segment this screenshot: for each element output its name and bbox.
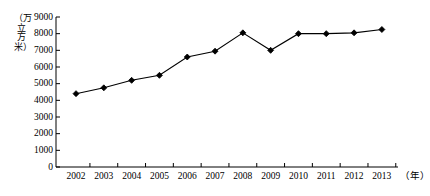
data-point-markers	[73, 27, 385, 97]
y-axis-tick-label: 7000	[34, 45, 53, 55]
data-line-series	[76, 30, 382, 94]
y-axis-tick-label: 0	[48, 162, 53, 172]
data-point-marker	[184, 54, 190, 60]
y-axis-tick-label: 8000	[34, 28, 53, 38]
data-point-marker	[156, 72, 162, 78]
y-axis-tick-label: 5000	[34, 78, 53, 88]
chart-axes	[56, 17, 398, 167]
x-axis-unit-label: （年）	[400, 171, 430, 181]
x-axis-tick-label: 2013	[366, 171, 398, 181]
y-axis-tick-label: 6000	[34, 62, 53, 72]
y-axis-ticks	[56, 17, 60, 167]
data-point-marker	[295, 31, 301, 37]
data-point-marker	[73, 91, 79, 97]
chart-canvas	[0, 0, 430, 196]
data-point-marker	[268, 47, 274, 53]
data-point-marker	[240, 30, 246, 36]
y-axis-tick-label: 9000	[34, 12, 53, 22]
y-axis-unit-label: （万立方米）	[14, 14, 28, 52]
y-axis-tick-label: 2000	[34, 128, 53, 138]
y-axis-tick-label: 1000	[34, 145, 53, 155]
data-point-marker	[101, 85, 107, 91]
y-axis-tick-label: 4000	[34, 95, 53, 105]
line-chart: （万立方米） 010002000300040005000600070008000…	[0, 0, 430, 196]
data-point-marker	[129, 77, 135, 83]
data-point-marker	[212, 48, 218, 54]
data-point-marker	[323, 31, 329, 37]
data-point-marker	[351, 30, 357, 36]
data-point-marker	[379, 27, 385, 33]
x-axis-ticks	[90, 163, 396, 167]
y-axis-tick-label: 3000	[34, 112, 53, 122]
